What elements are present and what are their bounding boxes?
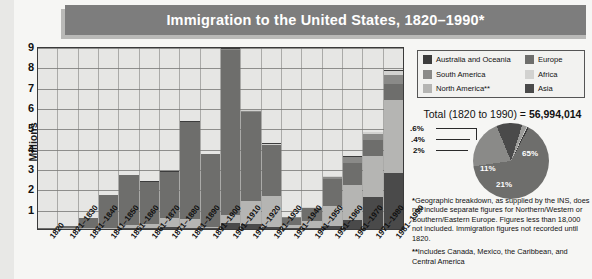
y-tick-6: 6 xyxy=(28,102,34,114)
legend-item-australia-and-oceania: Australia and Oceania xyxy=(423,55,519,64)
pie-slice-label: 21% xyxy=(496,180,512,189)
legend-item-asia: Asia xyxy=(525,84,563,93)
legend-swatch-icon xyxy=(525,70,534,79)
footnote-two: **Includes Canada, Mexico, the Caribbean… xyxy=(412,247,590,266)
bar-1921-1930 xyxy=(262,48,282,229)
bar-1821-1830 xyxy=(58,48,78,229)
bar-segment-south-america xyxy=(384,75,403,84)
page-title: Immigration to the United States, 1820–1… xyxy=(166,12,484,28)
legend-swatch-icon xyxy=(423,70,432,79)
bar-series-container xyxy=(38,48,403,229)
bar-segment-north-america xyxy=(384,100,403,174)
legend-item-europe: Europe xyxy=(525,55,563,64)
bar-1901-1910 xyxy=(221,48,241,229)
legend-swatch-icon xyxy=(525,55,534,64)
bar-1871-1880 xyxy=(160,48,180,229)
y-tick-5: 5 xyxy=(28,122,34,134)
bar-1951-1960 xyxy=(323,48,343,229)
legend-swatch-icon xyxy=(423,55,432,64)
legend-label: Europe xyxy=(538,55,563,64)
y-axis-ticks: 987654321 xyxy=(14,44,34,228)
legend-label: Africa xyxy=(538,70,557,79)
y-tick-2: 2 xyxy=(28,183,34,195)
legend-swatch-icon xyxy=(525,84,534,93)
legend-column-right: EuropeAfricaAsia xyxy=(525,55,563,93)
legend-item-north-america: North America** xyxy=(423,84,519,93)
legend-item-south-america: South America xyxy=(423,70,519,79)
bar-chart: Millions 987654321 18201821–18301831–184… xyxy=(0,44,410,279)
bar-1820 xyxy=(38,48,58,229)
y-tick-9: 9 xyxy=(28,41,34,53)
pie-callout-label: 2% xyxy=(413,146,425,155)
footnote-one-text: Geographic breakdown, as supplied by the… xyxy=(412,196,590,243)
pie-leader-line xyxy=(436,150,468,151)
pie-slice-label: 11% xyxy=(480,164,496,173)
bar-segment-europe xyxy=(384,84,403,99)
bar-1831-1840 xyxy=(79,48,99,229)
x-axis-ticks: 18201821–18301831–18401841–18501851–1860… xyxy=(37,232,404,279)
pie-leader-line xyxy=(436,139,470,140)
bar-1941-1950 xyxy=(302,48,322,229)
legend-swatch-icon xyxy=(423,84,432,93)
figure-root: Immigration to the United States, 1820–1… xyxy=(0,0,592,279)
y-tick-8: 8 xyxy=(28,61,34,73)
bar-1961-1970 xyxy=(343,48,363,229)
bar-segment-europe xyxy=(343,163,362,186)
pie-leader-line xyxy=(476,128,477,140)
footnotes: *Geographic breakdown, as supplied by th… xyxy=(412,196,590,270)
y-tick-1: 1 xyxy=(28,204,34,216)
legend-label: Australia and Oceania xyxy=(436,55,511,64)
bar-segment-north-america xyxy=(363,156,382,196)
legend-column-left: Australia and OceaniaSouth AmericaNorth … xyxy=(423,55,519,93)
bar-segment-europe xyxy=(323,179,342,206)
bar-segment-europe xyxy=(363,140,382,156)
total-value: 56,994,014 xyxy=(529,108,582,120)
footnote-two-text: Includes Canada, Mexico, the Caribbean, … xyxy=(412,247,568,265)
bar-1981-1990 xyxy=(384,48,403,229)
legend-item-africa: Africa xyxy=(525,70,563,79)
pie-chart: 65%21%11%.6%.4%2% xyxy=(410,122,592,200)
bar-segment-europe xyxy=(262,145,281,195)
pie-leader-line xyxy=(436,128,476,129)
bar-1861-1870 xyxy=(140,48,160,229)
legend: Australia and OceaniaSouth AmericaNorth … xyxy=(417,50,585,98)
bar-1851-1860 xyxy=(119,48,139,229)
bar-1931-1940 xyxy=(282,48,302,229)
pie-callout-label: .6% xyxy=(410,124,424,133)
legend-label: South America xyxy=(436,70,485,79)
pie-slice-label: 65% xyxy=(522,149,538,158)
y-tick-3: 3 xyxy=(28,163,34,175)
total-prefix: Total (1820 to 1990) = xyxy=(424,108,529,120)
legend-label: North America** xyxy=(436,84,490,93)
bar-1841-1850 xyxy=(99,48,119,229)
total-caption: Total (1820 to 1990) = 56,994,014 xyxy=(415,108,590,120)
bar-segment-europe xyxy=(241,112,260,201)
bar-segment-europe xyxy=(221,50,240,215)
y-tick-7: 7 xyxy=(28,82,34,94)
bar-1971-1980 xyxy=(363,48,383,229)
bar-1881-1890 xyxy=(180,48,200,229)
chart-title-bar: Immigration to the United States, 1820–1… xyxy=(65,5,586,35)
bar-1891-1900 xyxy=(201,48,221,229)
bar-1911-1920 xyxy=(241,48,261,229)
y-tick-4: 4 xyxy=(28,143,34,155)
legend-label: Asia xyxy=(538,84,553,93)
footnote-one: *Geographic breakdown, as supplied by th… xyxy=(412,196,590,243)
pie-callout-label: .4% xyxy=(411,135,425,144)
